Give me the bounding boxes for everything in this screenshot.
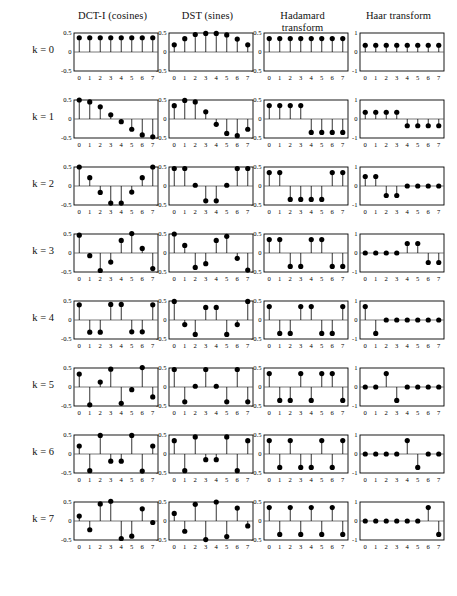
x-tick-label: 0 [268,543,272,550]
x-tick-label: 3 [109,74,113,81]
x-tick-label: 6 [236,342,240,349]
data-point [98,330,103,335]
data-point [415,123,420,128]
data-point [193,32,198,37]
row-label-k0: k = 0 [8,44,54,55]
y-tick-label: 0.5 [253,96,262,103]
y-tick-label: 0 [163,383,167,390]
y-tick-label: 0 [68,182,72,189]
data-point [384,110,389,115]
data-point [363,110,368,115]
x-tick-label: 0 [173,141,177,148]
x-tick-label: 4 [310,74,314,81]
data-point [426,43,431,48]
x-tick-label: 4 [215,74,219,81]
x-tick-label: 5 [225,141,229,148]
x-tick-label: 6 [236,141,240,148]
data-point [267,170,272,175]
data-point [108,459,113,464]
y-tick-label: 0.5 [158,364,167,371]
data-point [415,241,420,246]
x-tick-label: 5 [130,409,134,416]
data-point [193,332,198,337]
data-point [319,532,324,537]
data-point [426,505,431,510]
data-point [309,36,314,41]
data-point [235,36,240,41]
x-tick-label: 5 [416,208,420,215]
y-tick-label: 0 [354,182,358,189]
x-tick-label: 5 [416,342,420,349]
y-tick-label: 0 [68,450,72,457]
x-tick-label: 1 [374,275,377,282]
data-point [330,170,335,175]
x-tick-label: 6 [141,342,145,349]
data-point [193,384,198,389]
data-point [87,468,92,473]
x-tick-label: 5 [130,275,134,282]
x-tick-label: 3 [109,543,113,550]
y-tick-label: 0 [68,48,72,55]
y-tick-label: 0.5 [158,230,167,237]
y-tick-label: -0.5 [251,67,262,74]
x-tick-label: 3 [204,74,208,81]
x-tick-label: 5 [130,342,134,349]
data-point [108,112,113,117]
row-label-k1: k = 1 [8,111,54,122]
y-tick-label: 0 [163,249,167,256]
y-tick-label: 0 [258,249,262,256]
x-tick-label: 0 [364,409,368,416]
data-point [405,183,410,188]
y-tick-label: 0 [68,115,72,122]
x-tick-label: 2 [99,342,102,349]
y-tick-label: 0 [258,316,262,323]
y-tick-label: -1 [352,402,358,409]
data-point [363,250,368,255]
x-tick-label: 2 [289,476,292,483]
data-point [384,371,389,376]
data-point [224,434,229,439]
y-tick-label: -0.5 [156,134,167,141]
y-tick-label: 0 [354,450,358,457]
data-point [119,302,124,307]
data-point [267,505,272,510]
x-tick-label: 3 [204,476,208,483]
data-point [235,133,240,138]
data-point [108,499,113,504]
x-tick-label: 2 [194,74,197,81]
stem-plot-haar-k2: 10-101234567 [338,161,450,218]
data-point [373,250,378,255]
x-tick-label: 4 [120,543,124,550]
x-tick-label: 1 [374,409,377,416]
x-tick-label: 4 [120,141,124,148]
data-point [108,302,113,307]
x-tick-label: 1 [183,141,186,148]
data-point [98,35,103,40]
data-point [108,35,113,40]
x-tick-label: 6 [331,74,335,81]
x-tick-label: 0 [268,141,272,148]
data-point [267,438,272,443]
data-point [309,130,314,135]
transform-basis-figure: DCT-I (cosines) DST (sines) Hadamard tra… [0,0,457,596]
data-point [214,457,219,462]
data-point [267,36,272,41]
x-tick-label: 0 [78,208,82,215]
x-tick-label: 7 [437,342,441,349]
data-point [384,518,389,523]
data-point [203,109,208,114]
x-tick-label: 2 [194,342,197,349]
data-point [267,304,272,309]
x-tick-label: 1 [88,208,91,215]
x-tick-label: 1 [183,74,186,81]
x-tick-label: 1 [278,543,281,550]
x-tick-label: 5 [320,208,324,215]
row-label-k3: k = 3 [8,245,54,256]
x-tick-label: 1 [374,74,377,81]
data-point [436,43,441,48]
data-point [182,166,187,171]
y-tick-label: -0.5 [61,335,72,342]
data-point [87,175,92,180]
x-tick-label: 6 [427,208,431,215]
x-tick-label: 3 [109,342,113,349]
